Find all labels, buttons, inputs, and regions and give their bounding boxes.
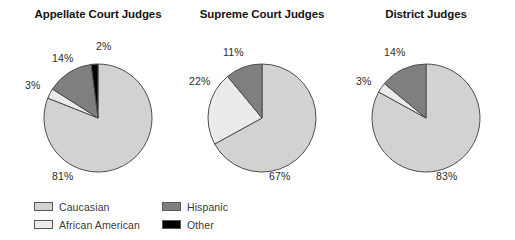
slice-percent-label: 83% [436, 170, 458, 182]
chart-panel-supreme-court-judges: Supreme Court Judges 11%22%67% [176, 0, 348, 192]
pie-slices-appellate [44, 64, 152, 172]
legend-label: African American [59, 219, 140, 231]
legend-swatch-icon [162, 220, 181, 229]
legend-label: Other [187, 219, 214, 231]
slice-percent-label: 3% [25, 79, 41, 91]
pie-appellate-court-judges [12, 0, 184, 192]
slice-percent-label: 67% [269, 170, 291, 182]
pie-svg [176, 0, 348, 192]
legend-column-right: HispanicOther [162, 198, 228, 234]
slice-percent-label: 2% [96, 40, 112, 52]
legend: CaucasianAfrican American HispanicOther [34, 198, 294, 234]
charts-row: Appellate Court Judges 2%14%3%81% Suprem… [0, 0, 515, 192]
slice-percent-label: 14% [384, 46, 406, 58]
legend-column-left: CaucasianAfrican American [34, 198, 140, 234]
pie-district-judges [340, 0, 512, 192]
legend-label: Caucasian [59, 201, 110, 213]
legend-item-hispanic: Hispanic [162, 198, 228, 215]
slice-percent-label: 3% [356, 75, 372, 87]
chart-panel-district-judges: District Judges 14%3%83% [340, 0, 512, 192]
pie-slices-district [372, 64, 480, 172]
slice-percent-label: 22% [189, 75, 211, 87]
pie-chart-figure: Appellate Court Judges 2%14%3%81% Suprem… [0, 0, 515, 240]
pie-svg [340, 0, 512, 192]
legend-item-caucasian: Caucasian [34, 198, 140, 215]
pie-slices-supreme [208, 64, 316, 172]
slice-percent-label: 14% [52, 52, 74, 64]
legend-label: Hispanic [187, 201, 228, 213]
legend-swatch-icon [34, 202, 53, 211]
legend-item-other: Other [162, 216, 228, 233]
legend-swatch-icon [34, 220, 53, 229]
legend-swatch-icon [162, 202, 181, 211]
chart-panel-appellate-court-judges: Appellate Court Judges 2%14%3%81% [12, 0, 184, 192]
legend-item-african-american: African American [34, 216, 140, 233]
slice-percent-label: 11% [223, 46, 244, 58]
slice-percent-label: 81% [52, 170, 74, 182]
pie-svg [12, 0, 184, 192]
pie-supreme-court-judges [176, 0, 348, 192]
